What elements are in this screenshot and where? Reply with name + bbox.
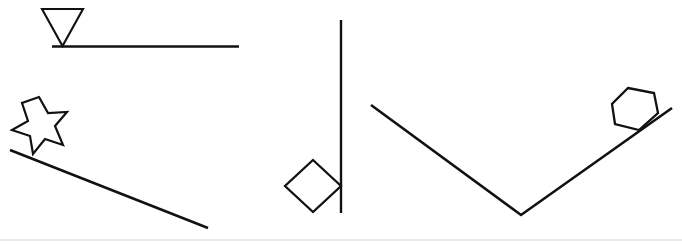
- panel-triangle-on-horizontal-surface: [42, 9, 239, 47]
- panel-star-on-descending-incline: [10, 97, 208, 228]
- physics-shapes-diagram: [0, 0, 682, 245]
- diagram-canvas: [0, 0, 682, 245]
- inverted-triangle-shape: [42, 9, 83, 46]
- diamond-shape: [285, 160, 341, 212]
- incline-surface-line: [10, 150, 208, 228]
- panel-hexagon-on-v-surface: [371, 88, 672, 215]
- panel-diamond-against-vertical-line: [285, 20, 341, 213]
- seven-pointed-star-shape: [12, 97, 67, 154]
- v-shaped-surface-line: [371, 105, 672, 215]
